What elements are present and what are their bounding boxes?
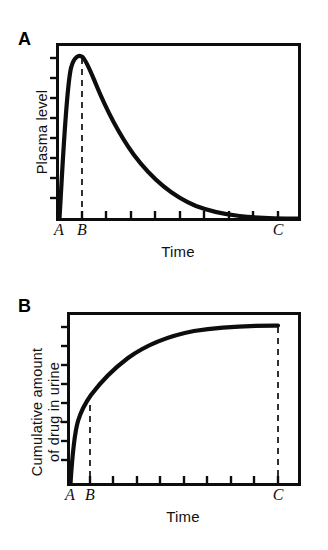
panel-b: B Cumulative amount of drug in urine <box>0 275 328 550</box>
panel-a-marker-a: A <box>49 222 69 238</box>
panel-b-axes-frame <box>69 314 300 485</box>
panel-a-axes-frame <box>58 45 300 220</box>
panel-b-marker-b: B <box>80 487 100 503</box>
pharmacokinetics-figure: A Plasma level <box>0 0 328 550</box>
panel-a-marker-b: B <box>72 222 92 238</box>
panel-b-marker-a: A <box>60 487 80 503</box>
panel-a-x-axis-label: Time <box>118 243 238 260</box>
panel-b-marker-c: C <box>268 487 288 503</box>
panel-a-marker-c: C <box>268 222 288 238</box>
panel-a: A Plasma level <box>0 0 328 275</box>
panel-b-x-axis-label: Time <box>123 508 243 525</box>
